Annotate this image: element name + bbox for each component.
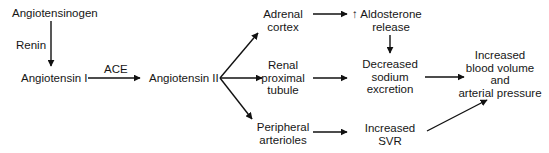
outcome-label: Increased blood volume and arterial pres… — [458, 49, 541, 99]
decreased-sodium-excretion-label: Decreased sodium excretion — [362, 58, 418, 96]
renal-proximal-tubule-label: Renal proximal tubule — [261, 59, 304, 97]
increased-svr-label: Increased SVR — [365, 122, 416, 147]
raas-diagram: Angiotensinogen Renin Angiotensin I ACE … — [0, 0, 549, 153]
branch-arrow-peripheral — [220, 78, 252, 119]
angiotensin-1-label: Angiotensin I — [21, 72, 88, 85]
peripheral-arterioles-label: Peripheral arterioles — [257, 121, 309, 146]
aldosterone-release-label: ↑ Aldosterone release — [352, 8, 424, 33]
angiotensinogen-label: Angiotensinogen — [12, 7, 98, 20]
svr-to-outcome-arrow — [427, 100, 487, 131]
branch-arrow-adrenal — [220, 33, 258, 78]
renin-label: Renin — [16, 39, 46, 52]
angiotensin-2-label: Angiotensin II — [149, 72, 219, 85]
adrenal-cortex-label: Adrenal cortex — [263, 8, 303, 33]
ace-label: ACE — [104, 63, 128, 76]
up-arrow-icon: ↑ — [352, 8, 358, 20]
